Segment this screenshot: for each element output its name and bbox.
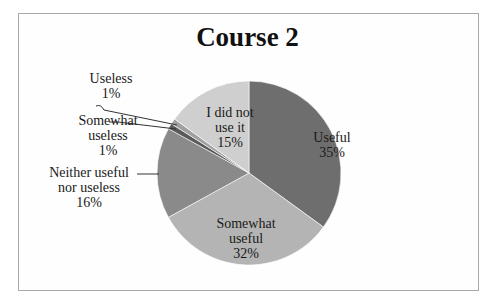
label-did-not-use: I did not use it 15% [200, 105, 260, 150]
label-somewhat-useful: Somewhat useful 32% [206, 216, 286, 261]
label-neither: Neither useful nor useless 16% [34, 165, 144, 210]
label-neither-value: 16% [34, 195, 144, 210]
label-did-not-use-value: 15% [200, 135, 260, 150]
label-somewhat-useful-name1: Somewhat [206, 216, 286, 231]
label-somewhat-useful-value: 32% [206, 246, 286, 261]
label-did-not-use-name2: use it [200, 120, 260, 135]
label-somewhat-useful-name2: useful [206, 231, 286, 246]
label-neither-name1: Neither useful [34, 165, 144, 180]
label-useless: Useless 1% [76, 71, 146, 101]
label-useless-value: 1% [76, 86, 146, 101]
label-useful-value: 35% [302, 145, 362, 160]
label-useful: Useful 35% [302, 130, 362, 160]
label-useful-name: Useful [302, 130, 362, 145]
label-somewhat-useless-name2: useless [68, 128, 148, 143]
label-somewhat-useless-value: 1% [68, 143, 148, 158]
label-useless-name: Useless [76, 71, 146, 86]
label-neither-name2: nor useless [34, 180, 144, 195]
label-did-not-use-name1: I did not [200, 105, 260, 120]
label-somewhat-useless-name1: Somewhat [68, 113, 148, 128]
label-somewhat-useless: Somewhat useless 1% [68, 113, 148, 158]
